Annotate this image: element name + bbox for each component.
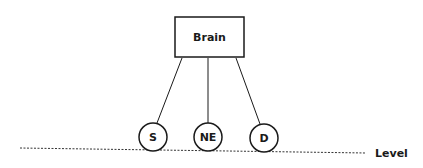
node-d-label: D (259, 132, 268, 145)
node-s: S (139, 123, 167, 151)
connector-brain-d (236, 58, 260, 124)
diagram-canvas: Brain S NE D Level (0, 0, 423, 168)
node-d: D (250, 124, 278, 152)
brain-label: Brain (193, 31, 226, 44)
brain-node: Brain (175, 17, 244, 57)
level-label: Level (375, 147, 408, 160)
node-ne-label: NE (200, 131, 217, 144)
level-line (20, 148, 366, 153)
node-s-label: S (149, 131, 157, 144)
connectors (157, 58, 260, 124)
node-ne: NE (194, 123, 222, 151)
connector-brain-s (157, 58, 182, 123)
